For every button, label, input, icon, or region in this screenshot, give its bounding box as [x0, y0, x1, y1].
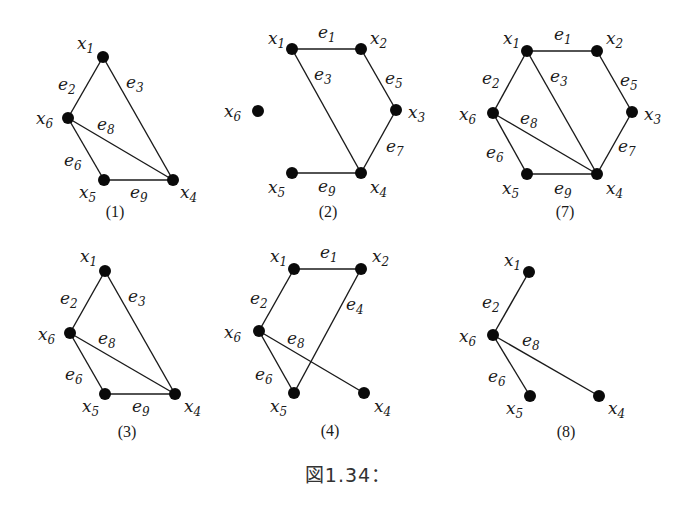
vertex-label-x1: x1: [270, 246, 287, 269]
vertex-label-x3: x3: [644, 104, 662, 127]
graph-4: e1e2e4e8e6x1x2x6x5x4(4): [224, 242, 391, 440]
vertex-x2: [355, 43, 367, 55]
vertex-x1: [288, 263, 300, 275]
edge-label-e2: e2: [482, 292, 500, 315]
edge-e3: [105, 271, 175, 394]
edge-label-e5: e5: [620, 70, 638, 93]
vertex-x4: [169, 388, 181, 400]
vertex-label-x5: x5: [270, 396, 287, 419]
vertex-x5: [99, 388, 111, 400]
vertex-label-x4: x4: [184, 396, 201, 419]
edge-label-e2: e2: [250, 288, 268, 311]
edge-label-e3: e3: [128, 286, 146, 309]
edge-label-e1: e1: [320, 242, 338, 265]
vertex-label-x5: x5: [79, 182, 96, 205]
edge-label-e8: e8: [97, 114, 115, 137]
vertex-x6: [487, 107, 499, 119]
vertex-x6: [62, 112, 74, 124]
graph-3: e2e3e8e6e9x1x6x5x4(3): [38, 246, 201, 441]
vertex-x1: [523, 266, 535, 278]
vertex-x6: [64, 327, 76, 339]
graph-caption: (3): [118, 423, 137, 441]
edge-e3: [527, 51, 597, 174]
graph-caption: (2): [319, 203, 338, 221]
vertex-x4: [358, 387, 370, 399]
vertex-label-x2: x2: [372, 246, 389, 269]
graph-1: e2e3e8e6e9x1x6x5x4(1): [36, 33, 197, 221]
edge-e8: [259, 331, 364, 393]
vertex-label-x1: x1: [503, 28, 520, 51]
edge-label-e8: e8: [520, 108, 538, 131]
vertex-label-x5: x5: [502, 178, 519, 201]
vertex-label-x1: x1: [504, 250, 521, 273]
edge-label-e3: e3: [314, 64, 332, 87]
vertex-x4: [355, 167, 367, 179]
edge-label-e1: e1: [318, 22, 336, 45]
vertex-label-x4: x4: [180, 182, 197, 205]
vertex-x1: [521, 45, 533, 57]
edge-label-e6: e6: [255, 364, 273, 387]
edge-e3: [103, 57, 173, 180]
vertex-x2: [591, 45, 603, 57]
edge-label-e3: e3: [550, 66, 568, 89]
vertex-label-x5: x5: [506, 398, 523, 421]
edge-label-e5: e5: [385, 68, 403, 91]
vertex-x4: [167, 174, 179, 186]
edge-label-e4: e4: [346, 294, 364, 317]
edge-e4: [294, 269, 361, 393]
edge-label-e1: e1: [554, 24, 572, 47]
edge-label-e2: e2: [60, 288, 78, 311]
vertex-label-x5: x5: [82, 396, 99, 419]
vertex-label-x6: x6: [36, 108, 54, 131]
vertex-label-x6: x6: [459, 104, 477, 127]
edge-label-e6: e6: [64, 150, 82, 173]
vertex-x4: [593, 390, 605, 402]
vertex-x1: [286, 43, 298, 55]
graph-caption: (1): [106, 203, 125, 221]
figure-caption: 図1.34：: [0, 460, 696, 487]
graph-diagram: e2e3e8e6e9x1x6x5x4(1)e1e3e5e7e9x1x2x3x4x…: [0, 0, 696, 508]
vertex-x5: [288, 387, 300, 399]
vertex-x1: [99, 265, 111, 277]
vertex-x4: [591, 168, 603, 180]
edge-label-e8: e8: [522, 330, 540, 353]
vertex-label-x5: x5: [268, 177, 285, 200]
edge-label-e6: e6: [486, 142, 504, 165]
graph-caption: (8): [557, 423, 576, 441]
vertex-x5: [521, 168, 533, 180]
vertex-x5: [98, 174, 110, 186]
vertex-x6: [253, 325, 265, 337]
vertex-label-x4: x4: [606, 178, 623, 201]
graph-2: e1e3e5e7e9x1x2x3x4x5x6(2): [224, 22, 426, 221]
edge-label-e9: e9: [132, 396, 150, 419]
vertex-x3: [390, 104, 402, 116]
vertex-label-x4: x4: [370, 177, 387, 200]
edge-label-e6: e6: [488, 366, 506, 389]
graph-caption: (7): [556, 203, 575, 221]
vertex-label-x4: x4: [374, 396, 391, 419]
vertex-label-x1: x1: [268, 28, 285, 51]
graph-7: e1e2e3e5e8e7e6e9x1x2x3x4x5x6(7): [459, 24, 662, 221]
edge-e8: [70, 333, 175, 394]
vertex-x5: [286, 167, 298, 179]
vertex-label-x6: x6: [38, 324, 56, 347]
edge-label-e9: e9: [554, 178, 572, 201]
edge-e8: [493, 335, 599, 396]
vertex-label-x6: x6: [224, 101, 242, 124]
edge-e8: [68, 118, 173, 180]
edge-label-e8: e8: [287, 328, 305, 351]
graph-caption: (4): [321, 422, 340, 440]
vertex-label-x6: x6: [224, 322, 242, 345]
edge-label-e2: e2: [58, 74, 76, 97]
vertex-label-x6: x6: [459, 326, 477, 349]
vertex-label-x2: x2: [370, 28, 387, 51]
vertex-x2: [355, 263, 367, 275]
edge-label-e3: e3: [126, 72, 144, 95]
edge-label-e9: e9: [130, 182, 148, 205]
vertex-label-x1: x1: [80, 246, 97, 269]
edge-label-e6: e6: [65, 364, 83, 387]
vertex-x5: [524, 390, 536, 402]
edge-label-e9: e9: [318, 176, 336, 199]
vertex-label-x2: x2: [606, 28, 623, 51]
graph-8: e2e8e6x1x6x5x4(8): [459, 250, 625, 441]
